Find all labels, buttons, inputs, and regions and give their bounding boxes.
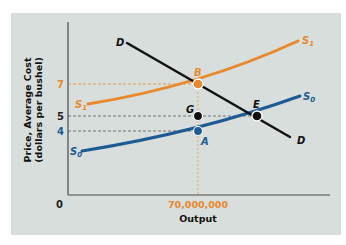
curve-label-s1-right: S1 <box>302 35 314 48</box>
chart-svg: B G A E D D S1 S1 S0 S0 7 5 4 0 70,000,0… <box>0 0 346 245</box>
y-tick-7: 7 <box>57 79 64 90</box>
curve-label-s0-right: S0 <box>303 91 315 104</box>
x-axis-label: Output <box>179 213 217 224</box>
point-g <box>194 112 203 121</box>
point-a <box>194 127 203 136</box>
supply-curve-s1 <box>88 41 298 104</box>
point-b <box>193 79 203 89</box>
curve-label-s1-left: S1 <box>75 99 87 112</box>
y-tick-4: 4 <box>57 126 64 137</box>
y-tick-5: 5 <box>57 111 64 122</box>
point-e <box>252 111 262 121</box>
point-g-label: G <box>186 104 194 115</box>
point-b-label: B <box>194 67 202 78</box>
y-axis-label-line2: (dollars per bushel) <box>33 57 44 163</box>
y-axis-label-line1: Price, Average Cost <box>22 57 33 162</box>
curve-label-d-top: D <box>116 37 124 48</box>
origin-label: 0 <box>56 199 63 210</box>
y-axis-label: Price, Average Cost (dollars per bushel) <box>22 57 44 163</box>
point-e-label: E <box>253 99 260 110</box>
x-tick-70m: 70,000,000 <box>168 199 228 210</box>
point-a-label: A <box>200 136 209 147</box>
curve-label-d-bottom: D <box>297 135 305 146</box>
curve-label-s0-left: S0 <box>70 146 82 159</box>
